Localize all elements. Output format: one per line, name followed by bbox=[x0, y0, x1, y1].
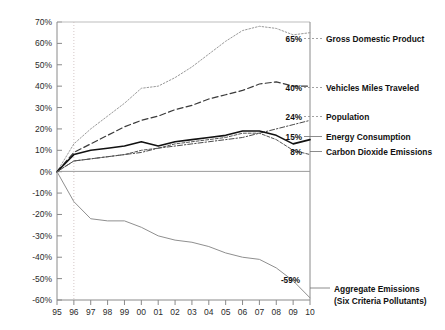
value-label-co2: 8% bbox=[290, 148, 303, 157]
x-tick-label: 97 bbox=[86, 307, 96, 317]
x-tick-label: 08 bbox=[272, 307, 282, 317]
series-label-aggregate-line2: (Six Criteria Pollutants) bbox=[334, 296, 427, 306]
x-tick-label: 07 bbox=[255, 307, 265, 317]
series-label-aggregate-line1: Aggregate Emissions bbox=[334, 284, 420, 294]
series-label-population: Population bbox=[326, 112, 369, 122]
x-tick-label: 96 bbox=[69, 307, 79, 317]
y-tick-label: 50% bbox=[35, 60, 52, 70]
x-axis-tick-labels: 95969798990001020304050607080910 bbox=[52, 307, 315, 317]
x-tick-label: 10 bbox=[305, 307, 315, 317]
y-axis-tick-marks bbox=[57, 22, 62, 300]
y-tick-label: 60% bbox=[35, 38, 52, 48]
y-tick-label: -50% bbox=[32, 274, 52, 284]
y-tick-label: -20% bbox=[32, 209, 52, 219]
y-tick-label: 10% bbox=[35, 145, 52, 155]
series-label-gdp: Gross Domestic Product bbox=[326, 34, 424, 44]
y-tick-label: -10% bbox=[32, 188, 52, 198]
series-label-energy: Energy Consumption bbox=[326, 132, 411, 142]
y-tick-label: -60% bbox=[32, 295, 52, 305]
value-label-aggregate: -59% bbox=[281, 276, 301, 285]
x-tick-label: 04 bbox=[204, 307, 214, 317]
value-label-gdp: 65% bbox=[286, 35, 303, 44]
x-tick-label: 06 bbox=[238, 307, 248, 317]
y-tick-label: 0% bbox=[40, 167, 53, 177]
x-tick-label: 00 bbox=[137, 307, 147, 317]
series-line-carbon-dioxide-emissions bbox=[57, 133, 310, 171]
y-tick-label: 70% bbox=[35, 17, 52, 27]
series-line-aggregate-emissions-six-criteria-pollutants bbox=[57, 172, 310, 298]
series-line-population bbox=[57, 120, 310, 171]
series-label-co2: Carbon Dioxide Emissions bbox=[326, 147, 432, 157]
series-paths bbox=[57, 26, 310, 298]
x-tick-label: 98 bbox=[103, 307, 113, 317]
y-tick-label: -40% bbox=[32, 252, 52, 262]
y-tick-label: 30% bbox=[35, 103, 52, 113]
x-axis-tick-marks bbox=[57, 300, 310, 305]
y-tick-label: 20% bbox=[35, 124, 52, 134]
y-tick-label: -30% bbox=[32, 231, 52, 241]
x-tick-label: 09 bbox=[288, 307, 298, 317]
value-label-energy: 15% bbox=[286, 133, 303, 142]
x-tick-label: 02 bbox=[170, 307, 180, 317]
series-label-vmt: Vehicles Miles Traveled bbox=[326, 83, 419, 93]
value-label-population: 24% bbox=[286, 113, 303, 122]
chart-canvas: 70%60%50%40%30%20%10%0%-10%-20%-30%-40%-… bbox=[0, 0, 445, 330]
x-tick-label: 05 bbox=[221, 307, 231, 317]
x-tick-label: 01 bbox=[153, 307, 163, 317]
x-tick-label: 95 bbox=[52, 307, 62, 317]
value-label-vmt: 40% bbox=[286, 84, 303, 93]
y-tick-label: 40% bbox=[35, 81, 52, 91]
series-name-labels: Gross Domestic Product Vehicles Miles Tr… bbox=[326, 34, 432, 306]
x-tick-label: 03 bbox=[187, 307, 197, 317]
series-value-labels: 65% 40% 24% 15% 8% -59% bbox=[281, 35, 303, 285]
emissions-trends-chart: 70%60%50%40%30%20%10%0%-10%-20%-30%-40%-… bbox=[0, 0, 445, 330]
leader-lines bbox=[304, 39, 330, 289]
y-axis-tick-labels: 70%60%50%40%30%20%10%0%-10%-20%-30%-40%-… bbox=[32, 17, 52, 305]
series-line-energy-consumption bbox=[57, 131, 310, 172]
x-tick-label: 99 bbox=[120, 307, 130, 317]
